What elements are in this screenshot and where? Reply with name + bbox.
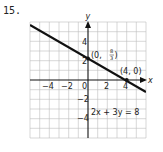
x-tick-label: 4 [123,82,128,91]
point-x-intercept [125,78,129,82]
x-tick-label: 0 [82,82,87,91]
y-intercept-label-suffix: ) [115,51,118,60]
coordinate-graph: x y −4 −2 0 2 4 4 2 −2 −4 (0, 8 3 ) (4, … [0,0,163,152]
x-intercept-label: (4, 0) [120,67,142,76]
equation-label: 2x + 3y = 8 [91,108,139,117]
y-intercept-frac-den: 3 [110,55,113,61]
y-tick-label: −4 [77,114,89,123]
point-y-intercept [86,57,90,61]
x-axis-label: x [147,76,153,85]
y-axis-label: y [85,12,91,21]
x-tick-label: −4 [42,82,54,91]
y-tick-label: 4 [82,38,87,47]
x-tick-label: −2 [61,82,73,91]
y-intercept-frac-num: 8 [110,48,113,54]
x-tick-label: 2 [104,82,109,91]
y-intercept-label-prefix: (0, [91,51,102,60]
y-tick-label: −2 [77,95,89,104]
